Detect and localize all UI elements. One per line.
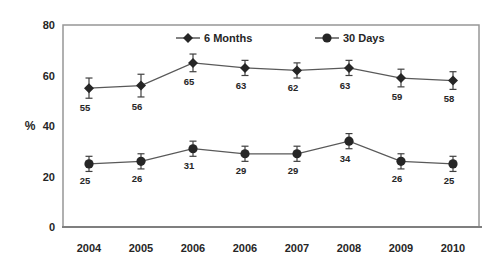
circle-marker-icon bbox=[448, 159, 457, 168]
x-tick-label: 2009 bbox=[389, 242, 413, 254]
y-tick-label: 20 bbox=[43, 171, 55, 183]
x-tick-label: 2008 bbox=[337, 242, 361, 254]
legend-item-30-days: 30 Days bbox=[315, 32, 385, 44]
circle-marker-icon bbox=[136, 157, 145, 166]
y-axis-ticks: 020406080 bbox=[43, 19, 55, 233]
y-tick-label: 0 bbox=[49, 221, 55, 233]
diamond-marker-icon bbox=[448, 76, 458, 86]
data-point-label: 29 bbox=[288, 165, 299, 176]
chart-figure: 020406080%200420052006200620072008200920… bbox=[0, 0, 500, 272]
data-point-label: 55 bbox=[80, 102, 91, 113]
diamond-marker-icon bbox=[240, 63, 250, 73]
diamond-marker-icon bbox=[183, 33, 193, 43]
data-point-label: 34 bbox=[340, 153, 351, 164]
y-tick-label: 60 bbox=[43, 70, 55, 82]
circle-marker-icon bbox=[344, 137, 353, 146]
data-point-label: 25 bbox=[444, 175, 455, 186]
circle-marker-icon bbox=[84, 159, 93, 168]
x-tick-label: 2006 bbox=[233, 242, 257, 254]
x-tick-label: 2007 bbox=[285, 242, 309, 254]
data-point-label: 56 bbox=[132, 101, 143, 112]
x-tick-label: 2010 bbox=[441, 242, 465, 254]
y-tick-label: 80 bbox=[43, 19, 55, 31]
diamond-marker-icon bbox=[344, 63, 354, 73]
circle-marker-icon bbox=[240, 149, 249, 158]
data-point-label: 58 bbox=[444, 93, 455, 104]
data-point-label: 29 bbox=[236, 165, 247, 176]
y-tick-label: 40 bbox=[43, 120, 55, 132]
diamond-marker-icon bbox=[292, 65, 302, 75]
data-point-label: 65 bbox=[184, 76, 195, 87]
data-point-label: 26 bbox=[132, 173, 143, 184]
data-point-label: 63 bbox=[236, 80, 247, 91]
diamond-marker-icon bbox=[136, 81, 146, 91]
x-tick-label: 2005 bbox=[129, 242, 153, 254]
x-tick-label: 2004 bbox=[77, 242, 102, 254]
series-30-days: 2526312929342625 bbox=[80, 134, 458, 187]
circle-marker-icon bbox=[322, 33, 331, 42]
legend-label: 30 Days bbox=[343, 32, 385, 44]
diamond-marker-icon bbox=[396, 73, 406, 83]
diamond-marker-icon bbox=[188, 58, 198, 68]
legend-label: 6 Months bbox=[204, 32, 252, 44]
y-axis-title: % bbox=[25, 119, 36, 133]
circle-marker-icon bbox=[396, 157, 405, 166]
line-chart: 020406080%200420052006200620072008200920… bbox=[0, 0, 500, 272]
plot-area-border bbox=[63, 25, 479, 227]
legend-item-6-months: 6 Months bbox=[176, 32, 252, 44]
circle-marker-icon bbox=[292, 149, 301, 158]
data-point-label: 25 bbox=[80, 175, 91, 186]
data-point-label: 59 bbox=[392, 91, 403, 102]
data-point-label: 63 bbox=[340, 80, 351, 91]
data-point-label: 31 bbox=[184, 160, 195, 171]
diamond-marker-icon bbox=[84, 83, 94, 93]
x-tick-label: 2006 bbox=[181, 242, 205, 254]
data-point-label: 62 bbox=[288, 82, 299, 93]
series-6-months: 5556656362635958 bbox=[80, 54, 458, 113]
data-point-label: 26 bbox=[392, 173, 403, 184]
x-axis-ticks: 20042005200620062007200820092010 bbox=[77, 242, 465, 254]
circle-marker-icon bbox=[188, 144, 197, 153]
